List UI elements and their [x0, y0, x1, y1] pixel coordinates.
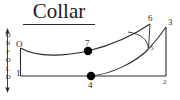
fold-arrow [5, 28, 9, 93]
label-point-4: 4 [88, 81, 93, 90]
curve-inner-hook-to-5 [128, 32, 149, 49]
point-7-dot [84, 47, 92, 55]
label-point-5: 5 [150, 44, 154, 53]
label-point-1: 1 [16, 69, 21, 78]
label-point-o: O [16, 40, 23, 49]
point-4-dot [87, 72, 95, 80]
collar-pattern-diagram: Collar O N F O L D [0, 0, 180, 100]
label-point-2: 2 [163, 78, 167, 87]
label-point-3: 3 [168, 18, 173, 27]
curve-4-to-5 [91, 49, 149, 76]
label-point-6: 6 [148, 14, 153, 23]
label-point-7: 7 [85, 39, 90, 48]
